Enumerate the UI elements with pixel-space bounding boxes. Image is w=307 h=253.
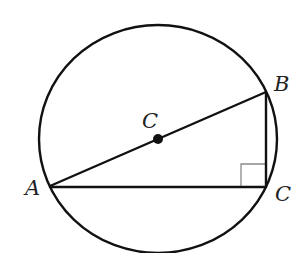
right-angle-marker — [241, 164, 266, 187]
center-point — [153, 134, 163, 144]
circle-triangle-diagram: C A B C — [0, 0, 307, 253]
label-c: C — [275, 182, 291, 206]
label-b: B — [273, 72, 289, 96]
label-a: A — [23, 176, 40, 200]
label-center: C — [142, 109, 158, 133]
